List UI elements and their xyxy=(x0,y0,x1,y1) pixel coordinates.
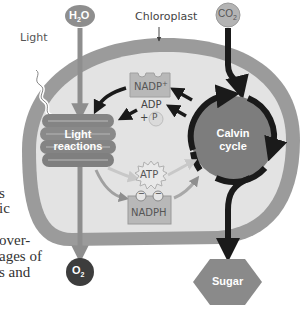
light-reactions-label: Light reactions xyxy=(40,128,116,152)
photosynthesis-diagram xyxy=(0,0,306,313)
page-text-fragment: s and xyxy=(0,264,30,281)
electron-sign-2: − xyxy=(155,189,162,198)
co2-label: CO2 xyxy=(218,8,237,21)
nadp-label: NADP+ xyxy=(134,80,168,92)
phosphate-label: P xyxy=(152,112,157,122)
page-text-fragment: ages of xyxy=(0,248,42,265)
sugar-label: Sugar xyxy=(212,275,243,287)
calvin-cycle-label: Calvin cycle xyxy=(203,127,263,153)
adp-label: ADP xyxy=(141,99,162,110)
page-text-fragment: ic xyxy=(0,200,10,217)
oxygen-label: O2 xyxy=(72,264,84,278)
chloroplast-label: Chloroplast xyxy=(135,10,197,23)
light-label: Light xyxy=(20,31,47,44)
electron-sign-1: − xyxy=(138,189,145,198)
plus-label: + xyxy=(140,112,148,123)
nadph-label: NADPH xyxy=(131,207,167,218)
page-text-fragment: over- xyxy=(0,232,30,249)
atp-label: ATP xyxy=(140,169,158,180)
water-label: H2O xyxy=(69,9,89,23)
